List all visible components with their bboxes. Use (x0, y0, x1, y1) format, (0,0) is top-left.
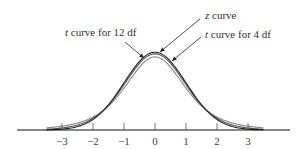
x-tick-label: 3 (245, 135, 251, 147)
x-tick-label: 1 (183, 135, 189, 147)
arrow-z-curve (160, 19, 200, 52)
t4-curve (47, 57, 264, 128)
x-tick-label: −1 (118, 135, 130, 147)
x-axis-ticks (62, 123, 248, 130)
annotation-z-text: curve (209, 9, 236, 21)
density-curves (47, 52, 264, 130)
annotation-z-curve: z curve (205, 9, 236, 21)
z-curve (47, 52, 264, 130)
x-tick-label: 0 (152, 135, 158, 147)
annotation-t4-curve: t curve for 4 df (205, 28, 271, 40)
x-tick-label: −2 (87, 135, 99, 147)
arrow-t4-curve (172, 37, 201, 61)
x-tick-label: 2 (214, 135, 220, 147)
annotation-t12-curve: t curve for 12 df (65, 26, 136, 38)
annotation-t12-text: curve for 12 df (68, 26, 136, 38)
t12-curve (47, 54, 264, 129)
t-vs-z-curves-chart (0, 0, 305, 149)
annotation-t4-text: curve for 4 df (208, 28, 271, 40)
x-tick-label: −3 (56, 135, 68, 147)
